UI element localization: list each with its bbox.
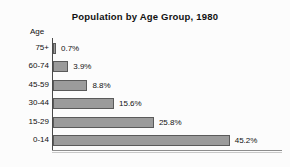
- bar-30-44[interactable]: [53, 98, 114, 109]
- value-label-75-: 0.7%: [61, 44, 79, 53]
- bar-75-[interactable]: [53, 43, 56, 54]
- value-label-15-29: 25.8%: [159, 118, 182, 127]
- value-label-0-14: 45.2%: [235, 136, 258, 145]
- bar-0-14[interactable]: [53, 135, 230, 146]
- category-label-30-44: 30-44: [4, 98, 49, 107]
- chart-row: 15-2925.8%: [0, 114, 290, 132]
- x-axis-line: [52, 150, 282, 151]
- y-axis-header-label: Age: [22, 27, 52, 36]
- value-label-30-44: 15.6%: [119, 99, 142, 108]
- category-label-45-59: 45-59: [4, 80, 49, 89]
- chart-row: 45-598.8%: [0, 77, 290, 95]
- bar-15-29[interactable]: [53, 117, 154, 128]
- category-label-0-14: 0-14: [4, 135, 49, 144]
- chart-title: Population by Age Group, 1980: [0, 11, 290, 22]
- value-label-60-74: 3.9%: [73, 62, 91, 71]
- bar-chart: Population by Age Group, 1980 Age 75+0.7…: [0, 0, 290, 167]
- chart-row: 0-1445.2%: [0, 132, 290, 150]
- chart-row: 60-743.9%: [0, 58, 290, 76]
- bar-45-59[interactable]: [53, 80, 87, 91]
- bar-60-74[interactable]: [53, 61, 68, 72]
- category-label-60-74: 60-74: [4, 61, 49, 70]
- category-label-75-: 75+: [4, 43, 49, 52]
- x-axis-baseline-shadow: [52, 152, 282, 153]
- value-label-45-59: 8.8%: [92, 81, 110, 90]
- chart-row: 30-4415.6%: [0, 95, 290, 113]
- chart-row: 75+0.7%: [0, 40, 290, 58]
- plot-area: 75+0.7%60-743.9%45-598.8%30-4415.6%15-29…: [0, 38, 290, 150]
- category-label-15-29: 15-29: [4, 117, 49, 126]
